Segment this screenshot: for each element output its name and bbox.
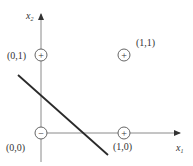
svg-text:+: + [121,128,127,139]
point-0-1: + (0,1) [7,49,47,62]
point-1-1: + (1,1) [118,37,155,61]
svg-text:+: + [121,50,127,61]
point-label: (0,1) [7,50,26,62]
decision-boundary-diagram: x2 x1 − (0,0) + (0,1) + (1,0) + (1,1) [0,0,193,166]
point-label: (1,0) [113,141,132,153]
svg-text:+: + [38,50,44,61]
point-1-0: + (1,0) [113,127,132,153]
y-axis-label: x2 [25,10,33,22]
x-axis-label: x1 [175,142,183,154]
point-label: (0,0) [6,142,25,154]
point-label: (1,1) [136,37,155,49]
svg-text:−: − [38,128,44,139]
decision-line [18,75,108,155]
